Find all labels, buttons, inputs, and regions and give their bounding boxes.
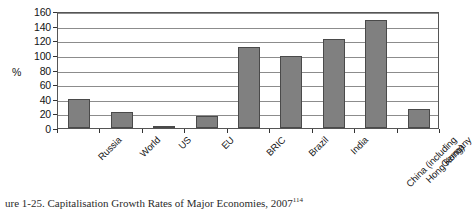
x-axis-label-us: US: [177, 135, 194, 152]
x-axis-label-russia: Russia: [97, 135, 125, 163]
y-axis-tick-label: 160: [34, 7, 51, 17]
y-axis-tick-label: 0: [45, 124, 51, 134]
x-axis-tick-mark: [99, 129, 100, 133]
y-axis-tick-label: 100: [34, 51, 51, 61]
x-axis-label-world: World: [138, 135, 162, 159]
x-axis-label-eu: EU: [219, 135, 236, 152]
x-axis-tick-mark: [354, 129, 355, 133]
y-axis-tick-label: 120: [34, 36, 51, 46]
x-axis-label-india: India: [349, 135, 371, 157]
bar-china-including[interactable]: [365, 20, 387, 128]
bar-india[interactable]: [323, 39, 345, 128]
caption-text: Capitalisation Growth Rates of Major Eco…: [47, 197, 292, 209]
bar-eu[interactable]: [196, 116, 218, 128]
x-axis-tick-mark: [439, 129, 440, 133]
bar-brazil[interactable]: [280, 56, 302, 128]
y-axis-label: %: [12, 66, 21, 78]
y-axis-tick-label: 60: [40, 80, 51, 90]
y-axis-tick-label: 40: [40, 95, 51, 105]
x-axis-tick-mark: [269, 129, 270, 133]
x-axis-label-brazil: Brazil: [307, 135, 331, 159]
x-axis-tick-mark: [57, 129, 58, 133]
bar-germany[interactable]: [408, 109, 430, 128]
y-axis-tick-label: 80: [40, 66, 51, 76]
caption-prefix: ure 1-25.: [5, 197, 45, 209]
bar-bric[interactable]: [238, 47, 260, 128]
x-axis-tick-mark: [142, 129, 143, 133]
bar-world[interactable]: [111, 112, 133, 128]
plot-area: [57, 12, 439, 129]
x-axis-label-bric: BRIC: [265, 135, 288, 158]
figure-caption: ure 1-25. Capitalisation Growth Rates of…: [5, 194, 445, 210]
y-axis-tick-label: 140: [34, 22, 51, 32]
bar-us[interactable]: [153, 126, 175, 128]
x-axis-tick-mark: [184, 129, 185, 133]
x-axis-tick-mark: [312, 129, 313, 133]
x-axis-tick-mark: [227, 129, 228, 133]
caption-footnote: 114: [293, 196, 303, 204]
y-axis-ticks: 020406080100120140160: [0, 12, 57, 129]
x-axis-tick-mark: [397, 129, 398, 133]
gridline: [58, 13, 438, 14]
y-axis-tick-label: 20: [40, 109, 51, 119]
bar-russia[interactable]: [68, 99, 90, 128]
plot-frame: [57, 12, 439, 129]
